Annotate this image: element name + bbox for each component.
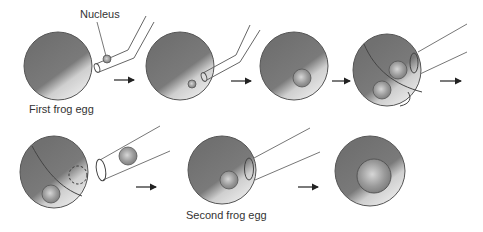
nucleus-pointer-line bbox=[97, 22, 106, 56]
nucleus bbox=[373, 81, 391, 99]
first-egg-label: First frog egg bbox=[29, 103, 94, 115]
nucleus bbox=[188, 80, 196, 88]
egg bbox=[146, 32, 214, 100]
step-4-cut-egg bbox=[353, 24, 467, 106]
nucleus bbox=[42, 185, 60, 203]
nucleus bbox=[103, 55, 111, 63]
second-egg-label: Second frog egg bbox=[186, 209, 267, 221]
step-1-first-egg bbox=[24, 16, 154, 100]
nucleus-label: Nucleus bbox=[80, 8, 120, 20]
nucleus bbox=[357, 159, 391, 193]
egg bbox=[188, 136, 256, 204]
nuclear-transfer-diagram: Nucleus First frog egg bbox=[0, 0, 483, 232]
step-2-injection bbox=[146, 25, 260, 100]
nucleus bbox=[389, 61, 407, 79]
egg bbox=[24, 32, 92, 100]
step-7-final-egg bbox=[335, 136, 405, 206]
egg bbox=[260, 32, 328, 100]
nucleus bbox=[119, 147, 137, 165]
step-6-second-egg bbox=[188, 128, 320, 204]
nucleus bbox=[293, 69, 311, 87]
step-5-nucleus-extracted bbox=[20, 126, 170, 208]
nucleus bbox=[220, 171, 238, 189]
step-3-egg-with-nucleus bbox=[260, 32, 328, 100]
pipette bbox=[93, 16, 154, 73]
